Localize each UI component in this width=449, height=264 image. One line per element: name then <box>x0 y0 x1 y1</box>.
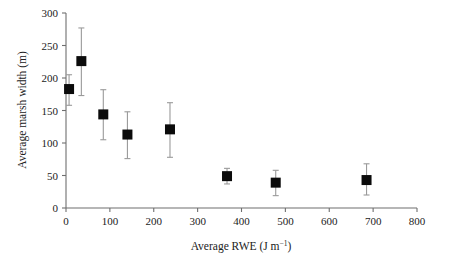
data-point-marker <box>98 109 108 119</box>
data-point-marker <box>362 175 372 185</box>
data-point-marker <box>64 84 74 94</box>
data-point-marker <box>76 56 86 66</box>
data-point-marker <box>165 124 175 134</box>
x-axis-title-base: Average RWE (J m <box>191 240 280 253</box>
x-tick-label: 600 <box>321 215 338 227</box>
x-tick-label: 500 <box>277 215 294 227</box>
y-axis-title-text: Average marsh width (m) <box>16 51 29 169</box>
y-tick-label: 50 <box>47 170 59 182</box>
x-tick-label: 400 <box>233 215 250 227</box>
x-axis-title-tail: ) <box>288 240 292 253</box>
scatter-plot-canvas: 0100200300400500600700800 05010015020025… <box>0 0 449 264</box>
data-point-marker <box>271 178 281 188</box>
y-axis-title: Average marsh width (m) <box>16 51 29 169</box>
chart-figure: 0100200300400500600700800 05010015020025… <box>0 0 449 264</box>
x-axis-title-superscript: −1 <box>280 239 288 248</box>
svg-text:Average RWE (J m−1): Average RWE (J m−1) <box>191 239 292 253</box>
y-tick-label: 250 <box>42 40 59 52</box>
x-tick-label: 100 <box>102 215 119 227</box>
x-axis-title: Average RWE (J m−1) <box>191 239 292 253</box>
data-point-marker <box>122 130 132 140</box>
y-tick-label: 0 <box>53 202 59 214</box>
x-tick-label: 800 <box>409 215 426 227</box>
y-tick-label: 150 <box>42 105 59 117</box>
x-tick-label: 0 <box>63 215 69 227</box>
x-tick-label: 700 <box>365 215 382 227</box>
y-tick-label: 300 <box>42 7 59 19</box>
x-tick-label: 300 <box>189 215 206 227</box>
y-tick-label: 200 <box>42 72 59 84</box>
x-tick-label: 200 <box>146 215 163 227</box>
data-point-marker <box>222 171 232 181</box>
y-tick-label: 100 <box>42 137 59 149</box>
